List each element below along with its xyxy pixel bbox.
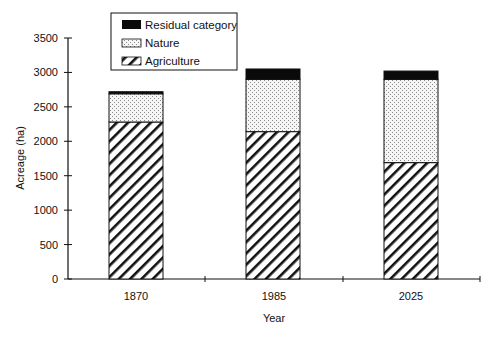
bar-segment-residual-category <box>246 69 300 79</box>
y-tick-label: 1500 <box>34 170 58 182</box>
bar-1985 <box>246 69 300 279</box>
stacked-bar-chart: 0500100015002000250030003500 Acreage (ha… <box>0 0 496 340</box>
legend-swatch-residual-icon <box>122 20 141 29</box>
bar-segment-nature <box>246 79 300 131</box>
bar-segment-agriculture <box>109 122 163 279</box>
y-tick-label: 0 <box>52 273 58 285</box>
y-tick-label: 2500 <box>34 101 58 113</box>
x-axis: 1870 1985 2025 Year <box>68 276 480 324</box>
bar-segment-residual-category <box>109 92 163 94</box>
x-tick-label: 2025 <box>399 290 423 302</box>
y-tick-label: 500 <box>40 239 58 251</box>
y-tick-label: 2000 <box>34 135 58 147</box>
legend-label-nature: Nature <box>145 37 180 49</box>
bar-segment-residual-category <box>384 71 438 79</box>
legend-swatch-agriculture-icon <box>122 57 141 65</box>
bars <box>109 69 438 279</box>
bar-segment-agriculture <box>246 132 300 279</box>
bar-segment-nature <box>109 94 163 122</box>
y-axis-title: Acreage (ha) <box>14 126 26 190</box>
x-tick-label: 1870 <box>124 290 148 302</box>
y-tick-label: 3000 <box>34 66 58 78</box>
bar-segment-nature <box>384 79 438 162</box>
y-tick-label: 3500 <box>34 32 58 44</box>
bar-2025 <box>384 71 438 279</box>
y-axis: 0500100015002000250030003500 Acreage (ha… <box>14 32 72 285</box>
x-axis-title: Year <box>263 312 286 324</box>
y-tick-label: 1000 <box>34 204 58 216</box>
legend-label-agriculture: Agriculture <box>145 55 200 67</box>
x-tick-label: 1985 <box>262 290 286 302</box>
legend-label-residual: Residual category <box>145 19 237 31</box>
legend: Residual category Nature Agriculture <box>111 13 237 70</box>
bar-segment-agriculture <box>384 163 438 279</box>
legend-swatch-nature-icon <box>122 39 141 47</box>
bar-1870 <box>109 92 163 279</box>
